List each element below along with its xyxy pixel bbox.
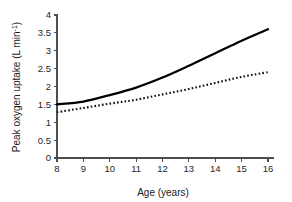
y-tick-label: 1.5 bbox=[38, 99, 51, 110]
x-tick-label: 11 bbox=[131, 163, 141, 174]
x-tick-label: 13 bbox=[184, 163, 195, 174]
x-tick-label: 10 bbox=[104, 163, 115, 174]
x-tick-label: 8 bbox=[54, 163, 59, 174]
y-tick-label: 3 bbox=[46, 45, 51, 56]
y-axis-title-text: Peak oxygen uptake (L min bbox=[11, 31, 22, 152]
x-tick-label: 12 bbox=[157, 163, 168, 174]
y-tick-label: 3.5 bbox=[38, 27, 51, 38]
y-axis-title-suffix: ) bbox=[11, 22, 22, 25]
figure-container: 00.511.522.533.54 8910111213141516 Age (… bbox=[0, 0, 292, 202]
peak-oxygen-uptake-line-chart: 00.511.522.533.54 8910111213141516 Age (… bbox=[0, 0, 292, 202]
x-tick-label: 14 bbox=[210, 163, 221, 174]
y-axis-title-group: Peak oxygen uptake (L min-1) bbox=[11, 22, 23, 152]
y-tick-label: 4 bbox=[46, 9, 51, 20]
y-tick-label: 0.5 bbox=[38, 135, 51, 146]
y-tick-label: 2 bbox=[46, 81, 51, 92]
x-tick-label: 16 bbox=[263, 163, 274, 174]
y-tick-label: 0 bbox=[46, 152, 51, 163]
y-tick-label: 2.5 bbox=[38, 63, 51, 74]
x-tick-label: 9 bbox=[81, 163, 86, 174]
x-axis-title: Age (years) bbox=[137, 187, 189, 198]
y-tick-label: 1 bbox=[46, 117, 51, 128]
y-axis-title: Peak oxygen uptake (L min-1) bbox=[11, 22, 23, 152]
x-tick-label: 15 bbox=[236, 163, 247, 174]
